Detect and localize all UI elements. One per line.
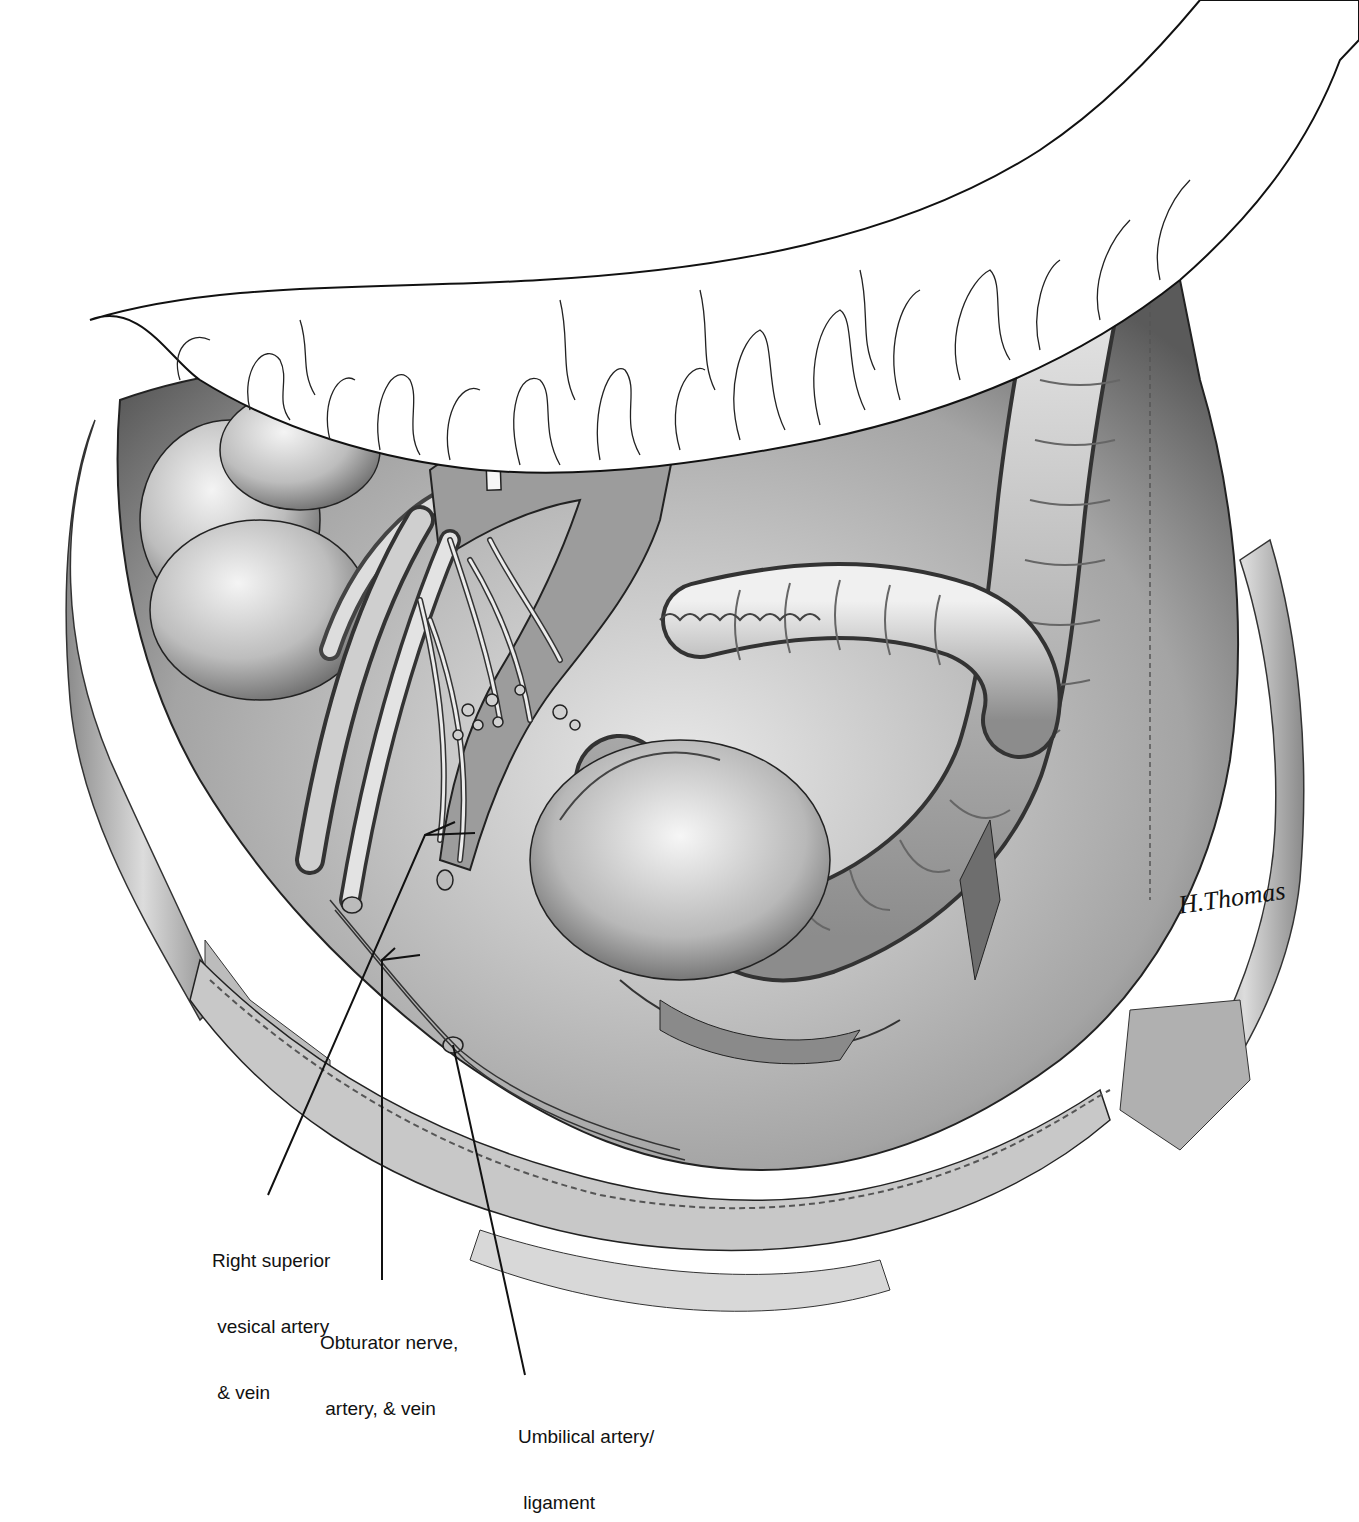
label-right-superior-vesical: Right superior vesical artery & vein (212, 1206, 330, 1426)
anatomical-illustration: H.Thomas (0, 0, 1359, 1522)
label-umbilical: Umbilical artery/ ligament (518, 1382, 654, 1522)
label-obturator: Obturator nerve, artery, & vein (320, 1288, 458, 1442)
